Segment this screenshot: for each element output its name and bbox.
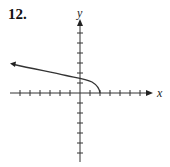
- x-axis-arrow-icon: [146, 90, 153, 96]
- y-axis-arrow-icon: [77, 19, 83, 26]
- y-axis-label: y: [76, 6, 83, 20]
- x-axis-label: x: [156, 86, 163, 100]
- graph: x y: [0, 0, 170, 167]
- curve-arrow-icon: [10, 62, 16, 67]
- function-curve: [14, 65, 100, 94]
